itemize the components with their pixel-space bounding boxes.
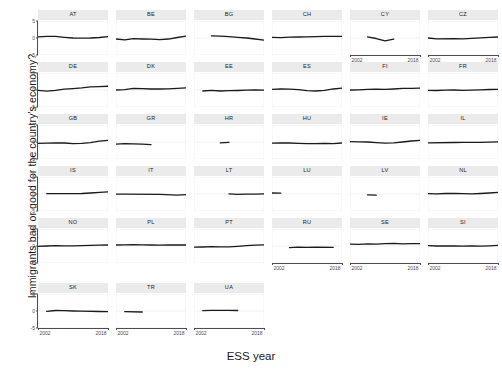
y-tick-label: 0 — [32, 140, 35, 145]
y-tick-label: 5 — [32, 123, 35, 128]
facet-strip: AT — [38, 10, 108, 20]
facet-panel-gb: GB — [38, 114, 108, 166]
facet-panel-fi: FI — [350, 62, 420, 114]
facet-strip: NL — [428, 166, 498, 176]
facet-strip-label: SI — [460, 220, 466, 226]
facet-panel-il: IL — [428, 114, 498, 166]
facet-strip-label: NL — [459, 168, 467, 174]
facet-strip-label: CZ — [459, 12, 467, 18]
data-series-line — [272, 36, 342, 37]
facet-panel-tr: TR20022018 — [116, 283, 186, 335]
facet-strip: CZ — [428, 10, 498, 20]
plot-area — [350, 125, 420, 159]
x-axis: 20022018 — [428, 263, 498, 274]
facet-strip-label: LU — [303, 168, 311, 174]
x-axis-line — [428, 263, 498, 264]
x-tick-label: 2002 — [273, 266, 284, 271]
facet-grid: -505ATBEBGCHCY20022018CZ20022018-505DEDK… — [38, 10, 498, 345]
facet-strip: CY — [350, 10, 420, 20]
facet-strip: DK — [116, 62, 186, 72]
plot-area — [428, 125, 498, 159]
data-series-line — [350, 243, 420, 244]
facet-strip: CH — [272, 10, 342, 20]
facet-strip: IE — [350, 114, 420, 124]
facet-strip: TR — [116, 283, 186, 293]
facet-strip-label: RU — [303, 220, 312, 226]
facet-strip-label: FI — [382, 64, 387, 70]
y-tick-label: 5 — [32, 292, 35, 297]
facet-panel-si: SI20022018 — [428, 218, 498, 270]
plot-area — [272, 229, 342, 263]
x-axis-line — [428, 55, 498, 56]
y-tick-label: 5 — [32, 175, 35, 180]
data-series-line — [116, 144, 151, 145]
facet-panel-cy: CY20022018 — [350, 10, 420, 62]
y-tick-label: 5 — [32, 71, 35, 76]
facet-strip: SE — [350, 218, 420, 228]
x-tick-label: 2002 — [351, 266, 362, 271]
facet-panel-it: IT — [116, 166, 186, 218]
data-series-line — [203, 90, 264, 91]
facet-strip: FI — [350, 62, 420, 72]
y-tick-label: 0 — [32, 244, 35, 249]
facet-panel-gr: GR — [116, 114, 186, 166]
plot-area — [350, 73, 420, 107]
x-tick-label: 2018 — [95, 331, 106, 336]
y-tick-label: 5 — [32, 19, 35, 24]
y-tick-label: -5 — [31, 209, 35, 214]
data-series-line — [220, 142, 229, 143]
facet-strip-label: HR — [225, 116, 234, 122]
facet-strip-label: GR — [147, 116, 156, 122]
y-tick-label: 5 — [32, 227, 35, 232]
facet-strip: NO — [38, 218, 108, 228]
data-series-line — [229, 194, 264, 195]
facet-panel-at: AT — [38, 10, 108, 62]
facet-strip: IL — [428, 114, 498, 124]
facet-strip: BG — [194, 10, 264, 20]
data-series-line — [428, 245, 498, 246]
facet-panel-pl: PL — [116, 218, 186, 270]
facet-strip: LV — [350, 166, 420, 176]
plot-area — [428, 21, 498, 55]
facet-panel-nl: NL — [428, 166, 498, 218]
facet-strip: UA — [194, 283, 264, 293]
facet-strip: GR — [116, 114, 186, 124]
facet-strip-label: IT — [148, 168, 153, 174]
facet-strip: HR — [194, 114, 264, 124]
facet-strip-label: SK — [69, 285, 77, 291]
facet-strip: BE — [116, 10, 186, 20]
data-series-line — [272, 143, 342, 144]
facet-panel-ie: IE — [350, 114, 420, 166]
x-tick-label: 2018 — [173, 331, 184, 336]
facet-strip-label: DK — [147, 64, 155, 70]
facet-strip: RU — [272, 218, 342, 228]
facet-panel-ua: UA20022018 — [194, 283, 264, 335]
x-tick-label: 2002 — [195, 331, 206, 336]
x-axis: 20022018 — [272, 263, 342, 274]
facet-row: -505NOPLPTRU20022018SE20022018SI20022018 — [38, 218, 498, 270]
plot-area — [116, 73, 186, 107]
facet-strip-label: PT — [225, 220, 233, 226]
y-axis: -505 — [27, 294, 38, 328]
facet-panel-no: NO — [38, 218, 108, 270]
facet-strip-label: UA — [225, 285, 233, 291]
facet-strip-label: BG — [225, 12, 234, 18]
plot-area — [194, 73, 264, 107]
facet-strip-label: SE — [381, 220, 389, 226]
plot-area — [38, 229, 108, 263]
facet-row: -505ISITLTLULVNL — [38, 166, 498, 218]
facet-panel-be: BE — [116, 10, 186, 62]
x-tick-label: 2018 — [329, 266, 340, 271]
facet-panel-hu: HU — [272, 114, 342, 166]
facet-strip: ES — [272, 62, 342, 72]
data-series-line — [47, 192, 108, 194]
facet-strip-label: IL — [460, 116, 465, 122]
plot-area — [350, 229, 420, 263]
facet-panel-ch: CH — [272, 10, 342, 62]
facet-panel-is: IS — [38, 166, 108, 218]
y-tick-label: -5 — [31, 261, 35, 266]
facet-row: -505SK20022018TR20022018UA20022018 — [38, 283, 498, 335]
plot-area — [194, 294, 264, 328]
facet-panel-ru: RU20022018 — [272, 218, 342, 270]
facet-strip: PT — [194, 218, 264, 228]
